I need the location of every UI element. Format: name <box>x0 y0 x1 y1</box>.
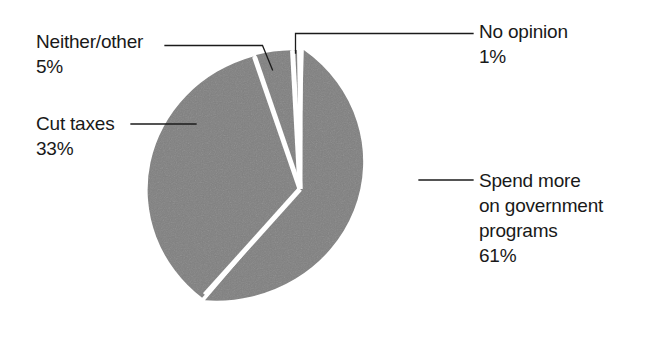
label-spend-more-text-3: programs <box>479 218 603 243</box>
label-neither-other-text: Neither/other <box>36 29 143 54</box>
label-neither-other-value: 5% <box>36 54 143 79</box>
label-no-opinion-text: No opinion <box>479 19 568 44</box>
label-cut-taxes-value: 33% <box>36 136 114 161</box>
label-no-opinion-value: 1% <box>479 44 568 69</box>
label-spend-more-text-1: Spend more <box>479 168 603 193</box>
label-spend-more: Spend more on government programs 61% <box>479 168 603 268</box>
label-cut-taxes-text: Cut taxes <box>36 111 114 136</box>
label-spend-more-text-2: on government <box>479 193 603 218</box>
label-neither-other: Neither/other 5% <box>36 29 143 79</box>
label-cut-taxes: Cut taxes 33% <box>36 111 114 161</box>
label-spend-more-value: 61% <box>479 243 603 268</box>
label-no-opinion: No opinion 1% <box>479 19 568 69</box>
pie-chart: Neither/other 5% Cut taxes 33% No opinio… <box>0 0 649 349</box>
